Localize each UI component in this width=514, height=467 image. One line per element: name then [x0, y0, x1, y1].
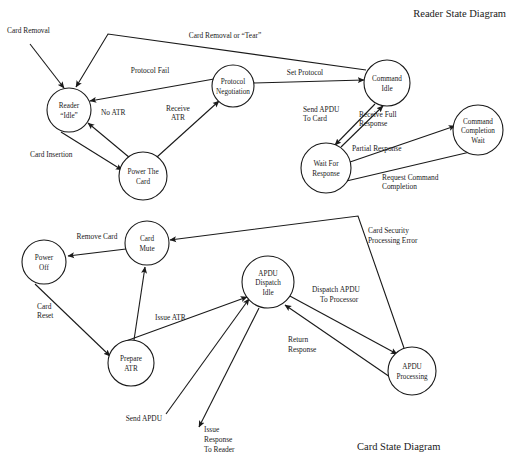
node-label-protocol-negotiation-line1: Protocol — [221, 78, 245, 86]
edge-partial-response: Partial Response — [350, 126, 455, 162]
node-prepare-atr[interactable]: Prepare ATR — [108, 340, 154, 386]
node-label-wait-for-response-line1: Wait For — [313, 160, 339, 168]
edge-card-reset: Card Reset — [35, 284, 110, 356]
edge-label-no-atr: No ATR — [101, 108, 126, 117]
edge-label-card-security-line1: Card Security — [368, 226, 409, 235]
node-card-mute[interactable]: Card Mute — [125, 221, 169, 265]
node-command-completion-wait[interactable]: Command Completion Wait — [453, 105, 503, 155]
node-circle-prepare-atr[interactable] — [108, 340, 154, 386]
edge-label-receive-full-line1: Receive Full — [359, 110, 397, 119]
edge-label-card-reset-line1: Card — [37, 302, 52, 311]
edge-label-request-completion-line2: Completion — [382, 182, 417, 191]
node-label-dispatch-idle-line2: Dispatch — [255, 279, 281, 287]
node-circle-power-the-card[interactable] — [119, 152, 167, 200]
edge-no-atr: No ATR — [88, 108, 130, 158]
node-label-dispatch-idle-line1: APDU — [258, 270, 278, 278]
node-label-wait-for-response-line2: Response — [312, 170, 340, 178]
node-label-prepare-atr-line1: Prepare — [120, 355, 142, 363]
edge-label-card-insertion: Card Insertion — [30, 150, 73, 159]
edge-card-removal: Card Removal — [7, 26, 64, 88]
card-state-diagram: Card State Diagram Remove Card Card Rese… — [22, 216, 440, 454]
edge-label-receive-atr-line1: Receive — [166, 104, 191, 113]
node-label-completion-wait-line2: Completion — [461, 127, 495, 135]
edge-label-send-apdu-line2: To Card — [303, 114, 327, 123]
node-label-protocol-negotiation-line2: Negotiation — [216, 88, 250, 96]
state-diagrams-svg: Reader State Diagram Card Removal Card R… — [0, 0, 514, 467]
node-label-power-off-line2: Off — [39, 264, 49, 272]
edge-request-command-completion: Request Command Completion — [338, 152, 470, 191]
edge-label-remove-card: Remove Card — [77, 232, 118, 241]
edge-label-receive-atr-line2: ATR — [171, 113, 185, 122]
edge-label-send-apdu-line1: Send APDU — [303, 105, 340, 114]
node-apdu-processing[interactable]: APDU Processing — [388, 347, 436, 395]
node-label-power-the-card-line2: Card — [136, 178, 150, 186]
node-label-power-off-line1: Power — [35, 254, 54, 262]
node-label-reader-idle-line2: “Idle” — [60, 112, 78, 120]
node-apdu-dispatch-idle[interactable]: APDU Dispatch Idle — [242, 256, 294, 308]
edge-label-card-security-line2: Processing Error — [368, 236, 418, 245]
node-circle-wait-for-response[interactable] — [301, 143, 351, 193]
edge-label-issue-response-line1: Issue — [204, 425, 220, 434]
edge-issue-response-to-reader: Issue Response To Reader — [199, 308, 259, 454]
node-label-power-the-card-line1: Power The — [127, 168, 158, 176]
node-wait-for-response[interactable]: Wait For Response — [301, 143, 351, 193]
node-circle-card-mute[interactable] — [125, 221, 169, 265]
node-circle-command-idle[interactable] — [364, 60, 410, 106]
edge-label-partial-response: Partial Response — [352, 144, 402, 153]
edge-receive-atr: Receive ATR — [157, 101, 219, 157]
edge-protocol-fail: Protocol Fail — [90, 66, 214, 101]
edge-label-issue-response-line3: To Reader — [204, 445, 235, 454]
node-circle-power-off[interactable] — [22, 240, 66, 284]
edge-set-protocol: Set Protocol — [253, 68, 364, 83]
edge-label-issue-atr: Issue ATR — [155, 313, 186, 322]
edge-label-return-response-line1: Return — [288, 335, 308, 344]
node-label-dispatch-idle-line3: Idle — [262, 289, 273, 297]
edge-label-request-completion-line1: Request Command — [382, 173, 439, 182]
edge-label-card-removal: Card Removal — [7, 26, 50, 35]
edge-label-receive-full-line2: Response — [359, 119, 388, 128]
node-circle-reader-idle[interactable] — [47, 88, 91, 132]
node-label-apdu-processing-line1: APDU — [402, 363, 422, 371]
edge-label-card-removal-or-tear: Card Removal or “Tear” — [189, 31, 261, 40]
edge-label-dispatch-apdu-line2: To Processor — [320, 295, 359, 304]
node-label-command-idle-line1: Command — [372, 75, 402, 83]
edge-label-set-protocol: Set Protocol — [287, 68, 323, 77]
node-label-command-idle-line2: Idle — [381, 85, 392, 93]
node-label-completion-wait-line3: Wait — [471, 137, 484, 145]
edge-return-response: Return Response — [285, 305, 390, 377]
reader-state-diagram: Reader State Diagram Card Removal Card R… — [7, 8, 506, 200]
state-diagram-canvas: Reader State Diagram Card Removal Card R… — [0, 0, 514, 467]
node-label-prepare-atr-line2: ATR — [124, 365, 138, 373]
edge-label-send-apdu: Send APDU — [126, 414, 163, 423]
node-label-reader-idle-line1: Reader — [59, 102, 80, 110]
node-label-card-mute-line1: Card — [140, 235, 154, 243]
edge-label-dispatch-apdu-line1: Dispatch APDU — [312, 285, 360, 294]
node-reader-idle[interactable]: Reader “Idle” — [47, 88, 91, 132]
node-power-off[interactable]: Power Off — [22, 240, 66, 284]
node-protocol-negotiation[interactable]: Protocol Negotiation — [212, 65, 254, 107]
node-command-idle[interactable]: Command Idle — [364, 60, 410, 106]
node-label-completion-wait-line1: Command — [463, 118, 493, 126]
node-label-card-mute-line2: Mute — [139, 245, 154, 253]
reader-diagram-title: Reader State Diagram — [413, 8, 506, 19]
edge-prepare-atr-to-card-mute — [134, 267, 145, 340]
node-circle-protocol-negotiation[interactable] — [212, 65, 254, 107]
edge-label-card-reset-line2: Reset — [37, 311, 54, 320]
edge-remove-card: Remove Card — [68, 232, 126, 256]
card-diagram-title: Card State Diagram — [357, 441, 440, 452]
node-circle-apdu-processing[interactable] — [388, 347, 436, 395]
edge-receive-full-response: Receive Full Response — [341, 106, 397, 147]
edge-card-insertion: Card Insertion — [30, 132, 122, 170]
edge-label-return-response-line2: Response — [288, 345, 317, 354]
edge-issue-atr: Issue ATR — [126, 297, 247, 341]
node-power-the-card[interactable]: Power The Card — [119, 152, 167, 200]
node-label-apdu-processing-line2: Processing — [396, 373, 428, 381]
edge-label-issue-response-line2: Response — [204, 435, 233, 444]
edge-label-protocol-fail: Protocol Fail — [131, 66, 169, 75]
